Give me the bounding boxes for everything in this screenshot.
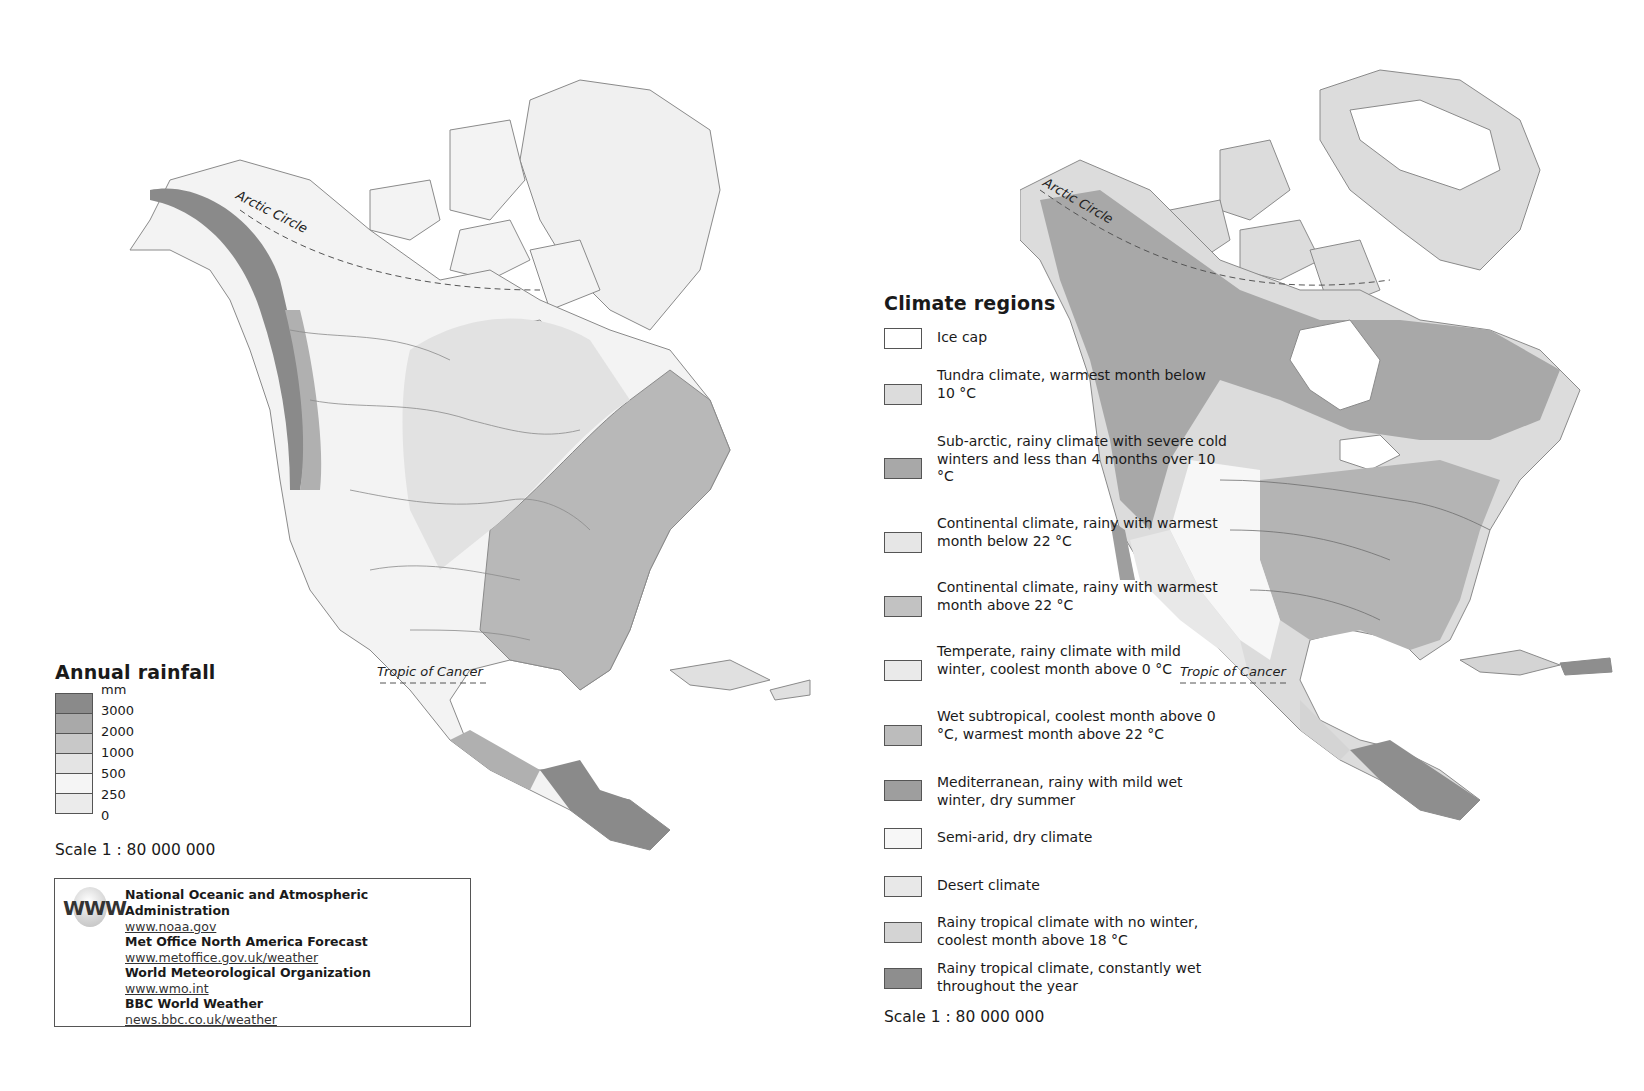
rainfall-swatch-0-250 bbox=[55, 793, 93, 814]
web-links-box: WWW National Oceanic and Atmospheric Adm… bbox=[54, 878, 471, 1027]
rainfall-label: 500 bbox=[101, 766, 126, 781]
tropic-of-cancer-label: Tropic of Cancer bbox=[377, 664, 484, 679]
rainfall-scale: Scale 1 : 80 000 000 bbox=[55, 841, 215, 859]
rainfall-swatch-3000-plus bbox=[55, 693, 93, 714]
rainfall-swatch-250-500 bbox=[55, 773, 93, 794]
climate-label: Continental climate, rainy with warmest … bbox=[937, 515, 1227, 550]
link-org-noaa: National Oceanic and Atmospheric Adminis… bbox=[125, 887, 470, 919]
rainfall-swatch-2000-3000 bbox=[55, 713, 93, 734]
climate-label: Mediterranean, rainy with mild wet winte… bbox=[937, 774, 1227, 809]
climate-scale: Scale 1 : 80 000 000 bbox=[884, 1008, 1044, 1026]
climate-swatch bbox=[884, 780, 922, 801]
climate-swatch bbox=[884, 660, 922, 681]
climate-swatch bbox=[884, 532, 922, 553]
link-org-bbc: BBC World Weather bbox=[125, 996, 470, 1012]
climate-label: Rainy tropical climate with no winter, c… bbox=[937, 914, 1227, 949]
rainfall-unit: mm bbox=[101, 682, 126, 697]
link-wmo[interactable]: www.wmo.int bbox=[125, 981, 470, 996]
climate-swatch bbox=[884, 328, 922, 349]
climate-swatch bbox=[884, 922, 922, 943]
climate-legend-title: Climate regions bbox=[884, 292, 1055, 314]
rainfall-label: 0 bbox=[101, 808, 109, 823]
link-metoffice[interactable]: www.metoffice.gov.uk/weather bbox=[125, 950, 470, 965]
rainfall-map: Arctic Circle Tropic of Cancer bbox=[110, 70, 830, 880]
link-list: National Oceanic and Atmospheric Adminis… bbox=[125, 887, 470, 1027]
climate-swatch bbox=[884, 384, 922, 405]
link-org-metoffice: Met Office North America Forecast bbox=[125, 934, 470, 950]
climate-swatch bbox=[884, 968, 922, 989]
climate-swatch bbox=[884, 458, 922, 479]
www-globe-icon: WWW bbox=[63, 893, 117, 923]
rainfall-legend-title: Annual rainfall bbox=[55, 661, 216, 683]
link-bbc[interactable]: news.bbc.co.uk/weather bbox=[125, 1012, 470, 1027]
rainfall-label: 2000 bbox=[101, 724, 134, 739]
climate-label: Desert climate bbox=[937, 877, 1227, 895]
rainfall-swatch-1000-2000 bbox=[55, 733, 93, 754]
climate-label: Temperate, rainy climate with mild winte… bbox=[937, 643, 1227, 678]
climate-label: Ice cap bbox=[937, 329, 1227, 347]
climate-swatch bbox=[884, 596, 922, 617]
climate-label: Rainy tropical climate, constantly wet t… bbox=[937, 960, 1227, 995]
climate-swatch bbox=[884, 876, 922, 897]
rainfall-label: 3000 bbox=[101, 703, 134, 718]
rainfall-label: 250 bbox=[101, 787, 126, 802]
climate-label: Sub-arctic, rainy climate with severe co… bbox=[937, 433, 1227, 486]
climate-swatch bbox=[884, 828, 922, 849]
climate-label: Tundra climate, warmest month below 10 °… bbox=[937, 367, 1227, 402]
rainfall-label: 1000 bbox=[101, 745, 134, 760]
climate-label: Continental climate, rainy with warmest … bbox=[937, 579, 1227, 614]
climate-swatch bbox=[884, 725, 922, 746]
climate-label: Wet subtropical, coolest month above 0 °… bbox=[937, 708, 1227, 743]
link-org-wmo: World Meteorological Organization bbox=[125, 965, 470, 981]
climate-label: Semi-arid, dry climate bbox=[937, 829, 1227, 847]
rainfall-swatch-500-1000 bbox=[55, 753, 93, 774]
link-noaa[interactable]: www.noaa.gov bbox=[125, 919, 470, 934]
